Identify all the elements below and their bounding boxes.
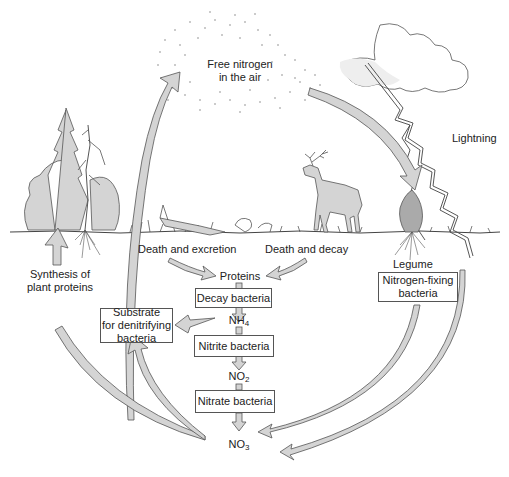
synthesis-line2: plant proteins	[18, 281, 102, 294]
free-nitrogen-label: Free nitrogen in the air	[200, 58, 280, 84]
arrow-nh4-to-nitrite	[236, 327, 242, 334]
nitrogen-fixing-line2: bacteria	[398, 287, 437, 300]
nh4-label: NH4	[224, 314, 254, 328]
nh4-sub: 4	[245, 319, 249, 328]
nitrate-bacteria-box: Nitrate bacteria	[195, 390, 275, 413]
substrate-line2: for denitrifying	[102, 319, 171, 332]
synthesis-label: Synthesis of plant proteins	[18, 268, 102, 294]
legume-plant-icon	[395, 190, 425, 260]
decay-bacteria-box: Decay bacteria	[195, 288, 272, 308]
synthesis-line1: Synthesis of	[18, 268, 102, 281]
arrow-nh4-to-substrate	[175, 315, 215, 333]
decay-bacteria-text: Decay bacteria	[197, 292, 270, 305]
substrate-box: Substrate for denitrifying bacteria	[100, 308, 173, 343]
substrate-line3: bacteria	[117, 332, 156, 345]
deer-icon	[303, 150, 362, 232]
death-decay-label: Death and decay	[265, 243, 348, 256]
arrow-nitrogen-fixing-to-no3	[258, 305, 420, 438]
arrow-death-excretion	[168, 258, 216, 280]
proteins-label: Proteins	[218, 270, 262, 283]
trees-and-corn-icon	[24, 108, 119, 258]
lightning-label: Lightning	[452, 132, 497, 145]
nitrogen-fixing-line1: Nitrogen-fixing	[383, 274, 454, 287]
no2-label: NO2	[224, 370, 254, 384]
death-excretion-label: Death and excretion	[138, 243, 236, 256]
nh4-base: NH	[229, 314, 245, 326]
nitrate-bacteria-text: Nitrate bacteria	[198, 395, 273, 408]
no3-label: NO3	[224, 438, 254, 452]
arrow-death-decay	[266, 258, 307, 280]
no2-sub: 2	[245, 375, 249, 384]
free-nitrogen-line1: Free nitrogen	[200, 58, 280, 71]
nitrite-bacteria-box: Nitrite bacteria	[194, 335, 274, 357]
free-nitrogen-line2: in the air	[200, 71, 280, 84]
no3-base: NO	[229, 438, 246, 450]
no2-base: NO	[229, 370, 246, 382]
substrate-line1: Substrate	[113, 306, 160, 319]
arrow-synthesis	[45, 228, 68, 265]
storm-cloud-icon	[340, 24, 468, 92]
decaying-log-icon	[160, 205, 272, 235]
nitrogen-fixing-box: Nitrogen-fixing bacteria	[378, 272, 458, 302]
no3-sub: 3	[245, 443, 249, 452]
arrow-nitrate-to-no3	[232, 413, 246, 431]
nitrite-bacteria-text: Nitrite bacteria	[199, 340, 270, 353]
arrow-nitrite-to-no2	[232, 356, 246, 370]
legume-label: Legume	[393, 258, 433, 271]
